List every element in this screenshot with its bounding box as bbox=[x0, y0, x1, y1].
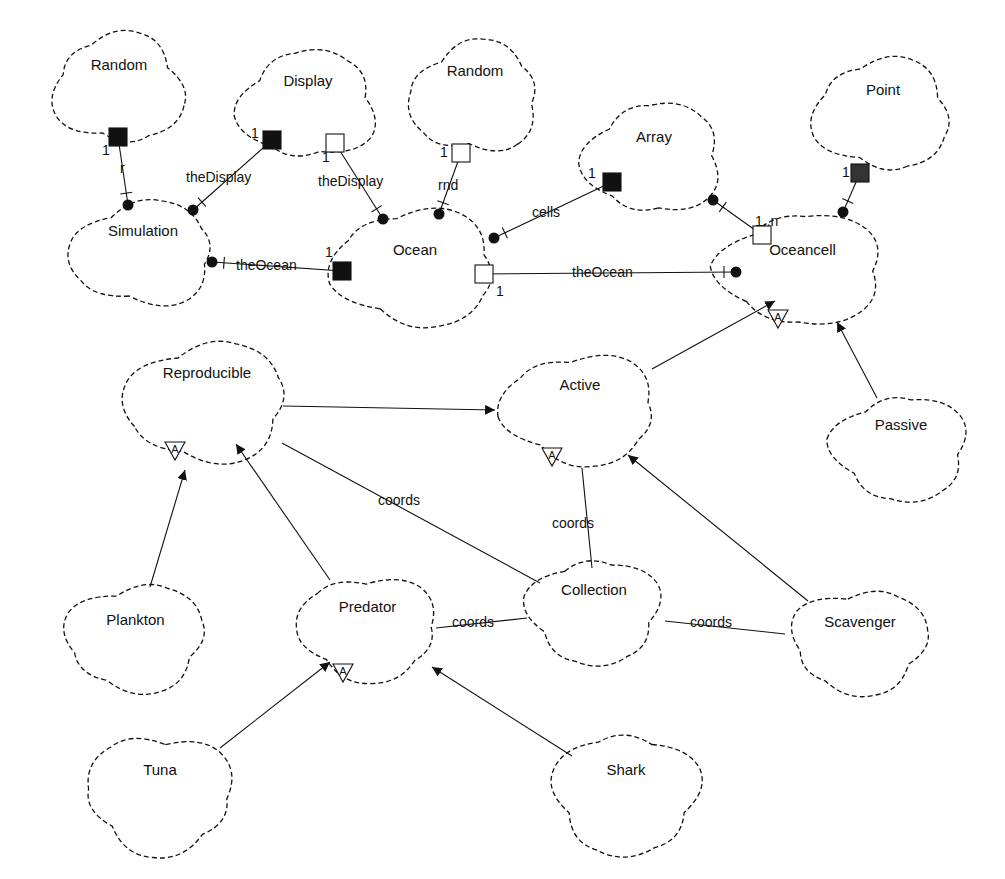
by-reference-square-icon bbox=[475, 265, 493, 283]
class-collection[interactable] bbox=[524, 561, 661, 666]
cloud-icon bbox=[827, 398, 966, 502]
by-value-square-icon bbox=[109, 128, 127, 146]
by-reference-square-icon bbox=[452, 144, 470, 162]
svg-text:A: A bbox=[339, 665, 347, 677]
multiplicity-label: 1..n bbox=[755, 213, 778, 229]
has-dot-icon bbox=[378, 214, 389, 225]
has-dot-icon bbox=[708, 195, 719, 206]
by-value-square-icon bbox=[851, 164, 869, 182]
multiplicity-label: 1 bbox=[842, 164, 850, 180]
cloud-icon bbox=[408, 39, 534, 151]
multiplicity-label: 1 bbox=[102, 142, 110, 158]
has-dot-icon bbox=[188, 205, 199, 216]
svg-text:A: A bbox=[171, 443, 179, 455]
class-tuna[interactable] bbox=[88, 738, 232, 858]
cloud-icon bbox=[811, 56, 949, 170]
class-name: Oceancell bbox=[769, 241, 836, 258]
cloud-icon bbox=[498, 355, 652, 467]
inheritance-arrow[interactable] bbox=[236, 444, 330, 580]
role-label: cells bbox=[532, 204, 560, 220]
class-name: Shark bbox=[606, 761, 646, 778]
multiplicity-label: 1 bbox=[588, 165, 596, 181]
class-shark[interactable] bbox=[551, 735, 702, 857]
class-name: Reproducible bbox=[163, 364, 251, 381]
association-label: coords bbox=[552, 515, 594, 531]
class-name: Active bbox=[560, 376, 601, 393]
booch-class-diagram: AAAA RandomDisplayRandomPointArraySimula… bbox=[0, 0, 1005, 879]
class-name: Passive bbox=[875, 416, 928, 433]
has-dot-icon bbox=[838, 207, 849, 218]
class-array[interactable] bbox=[579, 103, 718, 210]
class-random2[interactable] bbox=[408, 39, 534, 151]
class-name: Scavenger bbox=[824, 613, 896, 630]
inheritance-arrow[interactable] bbox=[150, 470, 185, 587]
role-label: theOcean bbox=[236, 257, 297, 273]
inheritance-arrow[interactable] bbox=[837, 322, 877, 398]
cloud-icon bbox=[792, 591, 929, 697]
cloud-icon bbox=[296, 580, 433, 684]
class-point[interactable] bbox=[811, 56, 949, 170]
class-name: Simulation bbox=[108, 222, 178, 239]
class-name: Point bbox=[866, 81, 901, 98]
cloud-icon bbox=[524, 561, 661, 666]
has-dot-icon bbox=[489, 233, 500, 244]
class-name: Display bbox=[283, 72, 333, 89]
svg-text:A: A bbox=[774, 311, 782, 323]
association-label: coords bbox=[452, 614, 494, 630]
multiplicity-label: 1 bbox=[322, 149, 330, 165]
cloud-icon bbox=[64, 585, 205, 695]
has-dot-icon bbox=[123, 200, 134, 211]
cloud-icon bbox=[328, 208, 491, 328]
association-label: coords bbox=[378, 492, 420, 508]
multiplicity-label: 1 bbox=[496, 283, 504, 299]
role-label: theOcean bbox=[572, 264, 633, 280]
class-plankton[interactable] bbox=[64, 585, 205, 695]
class-random1[interactable] bbox=[52, 30, 186, 141]
class-name: Random bbox=[447, 62, 504, 79]
has-dot-icon bbox=[731, 267, 742, 278]
class-scavenger[interactable] bbox=[792, 591, 929, 697]
role-label: r bbox=[120, 160, 125, 176]
cloud-icon bbox=[551, 735, 702, 857]
class-name: Array bbox=[636, 128, 672, 145]
role-label: theDisplay bbox=[318, 173, 383, 189]
class-predator[interactable] bbox=[296, 580, 433, 684]
cloud-icon bbox=[68, 200, 210, 306]
association-line[interactable] bbox=[282, 443, 540, 583]
class-clouds-layer bbox=[52, 30, 966, 858]
inheritance-arrow[interactable] bbox=[220, 662, 330, 748]
class-passive[interactable] bbox=[827, 398, 966, 502]
by-value-square-icon bbox=[333, 262, 351, 280]
has-dot-icon bbox=[207, 257, 218, 268]
cloud-icon bbox=[52, 30, 186, 141]
has-dot-icon bbox=[434, 209, 445, 220]
role-label: theDisplay bbox=[186, 169, 251, 185]
class-ocean[interactable] bbox=[328, 208, 491, 328]
class-active[interactable] bbox=[498, 355, 652, 467]
class-name: Plankton bbox=[106, 611, 164, 628]
class-name: Ocean bbox=[393, 241, 437, 258]
class-name: Collection bbox=[561, 581, 627, 598]
svg-text:A: A bbox=[548, 449, 556, 461]
class-name: Random bbox=[91, 56, 148, 73]
multiplicity-label: 1 bbox=[251, 125, 259, 141]
multiplicity-label: 1 bbox=[440, 144, 448, 160]
by-value-square-icon bbox=[263, 131, 281, 149]
cloud-icon bbox=[88, 738, 232, 858]
by-value-square-icon bbox=[603, 173, 621, 191]
association-label: coords bbox=[690, 614, 732, 630]
class-name: Tuna bbox=[143, 761, 177, 778]
role-label: rnd bbox=[438, 177, 458, 193]
class-simulation[interactable] bbox=[68, 200, 210, 306]
cloud-icon bbox=[122, 341, 284, 464]
multiplicity-label: 1 bbox=[325, 244, 333, 260]
inheritance-arrow[interactable] bbox=[628, 455, 808, 601]
inheritance-arrow[interactable] bbox=[283, 406, 495, 410]
inheritance-arrow[interactable] bbox=[432, 667, 572, 756]
class-reproducible[interactable] bbox=[122, 341, 284, 464]
class-name: Predator bbox=[339, 598, 397, 615]
cloud-icon bbox=[579, 103, 718, 210]
inheritance-arrow[interactable] bbox=[652, 301, 775, 369]
